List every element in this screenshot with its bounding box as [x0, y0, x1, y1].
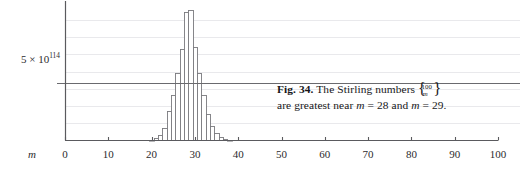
- caption-equation-2: = 29.: [423, 99, 447, 111]
- histogram-bar: [194, 48, 198, 141]
- caption-line-1-text: The Stirling numbers: [316, 83, 415, 95]
- caption-line-1: Fig. 34. The Stirling numbers { 100 m }: [277, 82, 509, 98]
- x-tick-label: 20: [137, 148, 167, 160]
- histogram-bar: [189, 11, 194, 141]
- caption-m-variable-1: m: [356, 99, 364, 111]
- x-tick-label: 30: [180, 148, 210, 160]
- histogram-bar: [202, 96, 207, 141]
- x-axis-name: m: [28, 148, 36, 160]
- caption-line-2: are greatest near m = 28 and m = 29.: [277, 98, 509, 114]
- x-tick-label: 40: [223, 148, 253, 160]
- histogram-bar: [215, 134, 220, 141]
- caption-figure-number: Fig. 34.: [277, 83, 314, 95]
- x-tick-label: 70: [353, 148, 383, 160]
- caption-equation-1: = 28 and: [368, 99, 409, 111]
- histogram-bar: [181, 50, 185, 141]
- figure-caption: Fig. 34. The Stirling numbers { 100 m } …: [277, 82, 509, 113]
- x-tick-label: 60: [310, 148, 340, 160]
- x-tick-label: 80: [396, 148, 426, 160]
- histogram-bar: [159, 136, 163, 141]
- x-tick-label: 50: [267, 148, 297, 160]
- histogram-bar: [211, 127, 215, 141]
- y-reference-label-wrap: 5 × 10114: [0, 51, 60, 65]
- x-tick-label: 100: [483, 148, 513, 160]
- histogram-bars-group: [150, 11, 233, 142]
- histogram-bar: [172, 96, 176, 141]
- histogram-bar: [207, 115, 211, 141]
- histogram-bar: [185, 13, 189, 141]
- brace-bottom-variable: m: [421, 91, 429, 98]
- x-tick-label: 90: [440, 148, 470, 160]
- y-reference-exponent: 114: [49, 51, 60, 60]
- y-reference-label: 5 × 10114: [21, 51, 60, 65]
- histogram-bar: [163, 129, 168, 141]
- figure-container: 5 × 10114 m 0102030405060708090100 Fig. …: [0, 0, 530, 172]
- x-tick-label: 0: [50, 148, 80, 160]
- histogram-bar: [168, 112, 172, 141]
- caption-m-variable-2: m: [411, 99, 419, 111]
- stirling-brace-notation: { 100 m }: [418, 83, 441, 98]
- right-brace-glyph: }: [434, 81, 442, 97]
- axes-group: [65, 1, 498, 141]
- caption-line-2-prefix: are greatest near: [277, 99, 353, 111]
- x-tick-label: 10: [93, 148, 123, 160]
